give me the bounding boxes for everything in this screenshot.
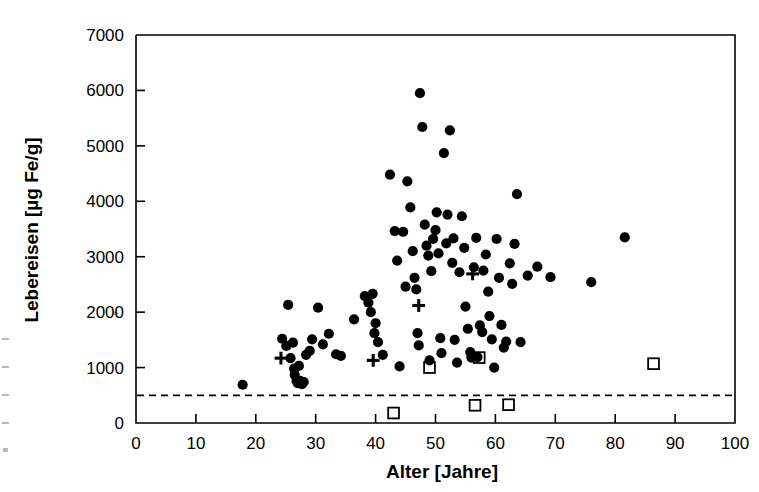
- data-point-circle: [336, 351, 346, 361]
- data-point-circle: [509, 239, 519, 249]
- data-point-circle: [305, 346, 315, 356]
- data-point-circle: [620, 232, 630, 242]
- x-axis-ticks: 0102030405060708090100: [131, 414, 749, 453]
- data-point-circle: [471, 233, 481, 243]
- data-point-circle: [489, 362, 499, 372]
- data-point-circle: [442, 209, 452, 219]
- data-markers: [238, 88, 659, 418]
- data-point-circle: [394, 361, 404, 371]
- data-point-square: [470, 400, 481, 411]
- data-point-circle: [532, 262, 542, 272]
- data-point-circle: [487, 334, 497, 344]
- x-tick-label: 100: [721, 434, 749, 453]
- data-point-circle: [494, 273, 504, 283]
- data-point-circle: [417, 122, 427, 132]
- data-point-circle: [457, 211, 467, 221]
- data-point-circle: [398, 227, 408, 237]
- data-point-circle: [445, 125, 455, 135]
- data-point-circle: [447, 258, 457, 268]
- data-point-circle: [426, 266, 436, 276]
- data-point-circle: [452, 357, 462, 367]
- data-point-circle: [299, 377, 309, 387]
- data-point-circle: [420, 219, 430, 229]
- data-point-circle: [378, 350, 388, 360]
- data-point-circle: [586, 277, 596, 287]
- data-point-circle: [411, 284, 421, 294]
- x-axis-title: Alter [Jahre]: [386, 461, 498, 482]
- data-point-circle: [324, 329, 334, 339]
- x-tick-label: 30: [306, 434, 325, 453]
- data-point-circle: [368, 289, 378, 299]
- data-point-circle: [363, 298, 373, 308]
- data-point-circle: [318, 339, 328, 349]
- data-point-circle: [477, 327, 487, 337]
- data-point-circle: [405, 202, 415, 212]
- data-point-circle: [501, 336, 511, 346]
- data-point-circle: [491, 234, 501, 244]
- y-tick-label: 0: [115, 414, 124, 433]
- data-point-circle: [505, 258, 515, 268]
- data-point-circle: [433, 248, 443, 258]
- data-point-circle: [400, 282, 410, 292]
- data-point-circle: [412, 328, 422, 338]
- data-point-circle: [423, 251, 433, 261]
- data-point-circle: [523, 270, 533, 280]
- data-point-circle: [414, 340, 424, 350]
- x-tick-label: 80: [606, 434, 625, 453]
- data-point-circle: [373, 337, 383, 347]
- x-tick-label: 70: [546, 434, 565, 453]
- data-point-circle: [294, 361, 304, 371]
- data-point-circle: [385, 170, 395, 180]
- data-point-circle: [371, 318, 381, 328]
- data-point-circle: [430, 225, 440, 235]
- data-point-circle: [402, 176, 412, 186]
- data-point-circle: [288, 338, 298, 348]
- data-point-circle: [428, 234, 438, 244]
- data-point-circle: [454, 267, 464, 277]
- data-point-circle: [238, 380, 248, 390]
- data-point-square: [388, 408, 399, 419]
- scatter-plot: 01000200030004000500060007000 0102030405…: [0, 0, 759, 492]
- data-point-circle: [459, 243, 469, 253]
- data-point-circle: [424, 355, 434, 365]
- data-point-circle: [283, 300, 293, 310]
- data-point-circle: [435, 333, 445, 343]
- data-point-circle: [366, 307, 376, 317]
- data-point-circle: [436, 348, 446, 358]
- figure-container: 01000200030004000500060007000 0102030405…: [0, 0, 759, 492]
- data-point-circle: [512, 189, 522, 199]
- data-point-circle: [349, 314, 359, 324]
- data-point-circle: [415, 88, 425, 98]
- data-point-plus: [412, 299, 425, 312]
- data-point-circle: [460, 302, 470, 312]
- data-point-plus: [275, 352, 288, 365]
- data-point-circle: [432, 207, 442, 217]
- data-point-circle: [307, 334, 317, 344]
- data-point-square: [503, 399, 514, 410]
- data-point-circle: [478, 265, 488, 275]
- x-tick-label: 60: [486, 434, 505, 453]
- x-tick-label: 90: [666, 434, 685, 453]
- x-tick-label: 0: [131, 434, 140, 453]
- x-tick-label: 40: [366, 434, 385, 453]
- y-tick-label: 1000: [86, 359, 124, 378]
- y-tick-label: 7000: [86, 26, 124, 45]
- data-point-circle: [408, 246, 418, 256]
- y-axis-title: Lebereisen [µg Fe/g]: [21, 137, 42, 322]
- data-point-plus: [367, 354, 380, 367]
- y-tick-label: 3000: [86, 248, 124, 267]
- y-tick-label: 6000: [86, 81, 124, 100]
- data-point-circle: [481, 249, 491, 259]
- x-tick-label: 20: [246, 434, 265, 453]
- data-point-circle: [463, 324, 473, 334]
- x-tick-label: 10: [186, 434, 205, 453]
- data-point-circle: [409, 273, 419, 283]
- y-tick-label: 2000: [86, 303, 124, 322]
- data-point-circle: [369, 328, 379, 338]
- y-tick-label: 4000: [86, 192, 124, 211]
- data-point-circle: [439, 148, 449, 158]
- data-point-circle: [507, 279, 517, 289]
- x-tick-label: 50: [426, 434, 445, 453]
- data-point-circle: [313, 303, 323, 313]
- data-point-circle: [515, 337, 525, 347]
